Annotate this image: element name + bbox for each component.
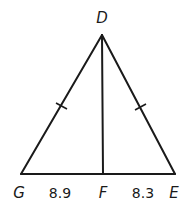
vertex-label-g: G: [13, 184, 25, 202]
measurement-gf: 8.9: [49, 185, 71, 201]
segment-dg: [21, 35, 102, 174]
vertex-label-e: E: [169, 184, 179, 202]
vertex-label-f: F: [99, 184, 108, 202]
segment-df: [102, 35, 103, 174]
vertex-label-d: D: [96, 9, 108, 27]
measurement-fe: 8.3: [132, 185, 154, 201]
segment-de: [102, 35, 175, 174]
triangle-diagram: D G F E 8.9 8.3: [0, 0, 190, 205]
